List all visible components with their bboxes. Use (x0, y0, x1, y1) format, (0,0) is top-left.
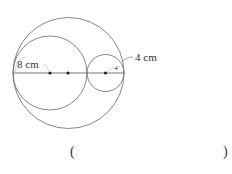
left-radius-label: 8 cm (17, 58, 39, 70)
small-radius-arrow-icon (114, 67, 118, 70)
outer-circle-center-dot (66, 71, 69, 74)
answer-close-paren: ) (223, 144, 228, 160)
left-circle-center-dot (48, 71, 51, 74)
small-radius-label: 4 cm (135, 51, 157, 63)
small-radius-dimension-arc (108, 67, 121, 72)
circles-diagram: 8 cm 4 cm ( ) (0, 0, 232, 174)
small-circle-center-dot (104, 71, 107, 74)
small-radius-leader-line (122, 57, 133, 62)
answer-open-paren: ( (70, 144, 75, 160)
